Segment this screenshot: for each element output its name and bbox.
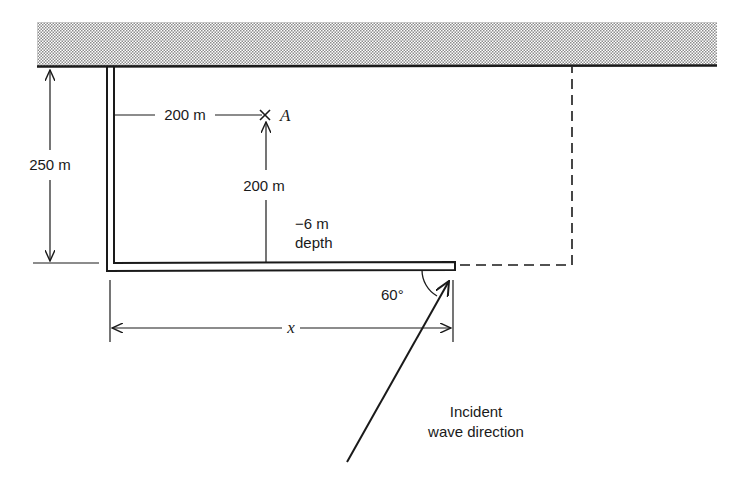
- dashed-harbor-boundary: [460, 67, 572, 265]
- dim-horizontal-label: 200 m: [164, 106, 206, 123]
- wave-arrow: Incident wave direction: [347, 281, 524, 462]
- angle-60: 60°: [381, 270, 437, 303]
- wave-label-line2: wave direction: [427, 423, 524, 440]
- wave-label-line1: Incident: [450, 403, 503, 420]
- depth-label: −6 m depth: [295, 215, 333, 251]
- dimension-200m-vertical: 200 m: [243, 122, 285, 262]
- point-A-label: A: [279, 106, 291, 125]
- svg-text:depth: depth: [295, 234, 333, 251]
- breakwater: [107, 67, 455, 271]
- dimension-250m: 250 m: [29, 70, 99, 263]
- angle-label: 60°: [381, 286, 404, 303]
- breakwater-diagram: 250 m 200 m A 200 m −6 m depth x 60°: [0, 0, 738, 492]
- dim-vertical-label: 200 m: [243, 177, 285, 194]
- shoreline-land: [37, 22, 717, 67]
- svg-text:−6 m: −6 m: [295, 215, 329, 232]
- dim-x-label: x: [286, 318, 295, 337]
- dim-left-label: 250 m: [29, 156, 71, 173]
- point-A: A: [260, 106, 291, 125]
- dimension-200m-horizontal: 200 m: [115, 106, 262, 123]
